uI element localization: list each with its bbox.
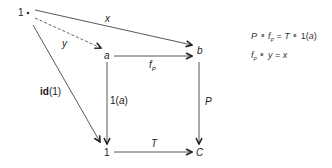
- label-p: P: [205, 97, 212, 107]
- node-1-bottom: 1: [104, 148, 110, 158]
- label-x: x: [105, 14, 110, 24]
- equation-1: P ∘ fP = T ∘ 1(a): [251, 31, 317, 45]
- node-b: b: [197, 46, 203, 56]
- label-y: y: [62, 39, 67, 49]
- equation-2: fP ∘ y = x: [251, 50, 287, 64]
- node-dot: [27, 12, 30, 15]
- diagram-arrows: [0, 0, 332, 168]
- node-c: C: [196, 148, 203, 158]
- label-1a: 1(a): [110, 96, 128, 106]
- arrow-x: [35, 10, 192, 45]
- label-id: id(1): [40, 87, 61, 97]
- label-fp: fP: [149, 60, 156, 74]
- label-t: T: [151, 139, 157, 149]
- node-a: a: [104, 51, 110, 61]
- node-1-top: 1: [18, 8, 24, 18]
